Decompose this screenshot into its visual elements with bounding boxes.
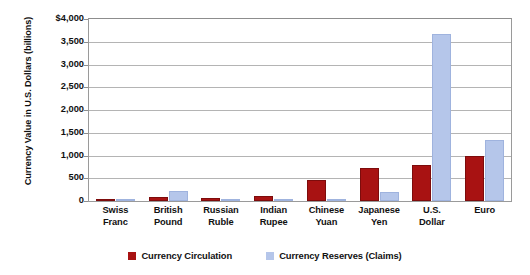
bar-group xyxy=(89,19,142,201)
x-tick-label-line1: Russian xyxy=(203,205,238,215)
y-tick-label: 3,500 xyxy=(24,37,84,46)
y-tick-mark xyxy=(84,42,88,43)
bar-currency-circulation[interactable] xyxy=(254,196,273,201)
x-tick-label-line2: Franc xyxy=(89,217,142,229)
x-tick-label: U.S.Dollar xyxy=(406,205,459,228)
bar-currency-circulation[interactable] xyxy=(307,180,326,201)
y-tick-mark xyxy=(84,156,88,157)
bar-currency-circulation[interactable] xyxy=(96,199,115,202)
y-tick-label: 0 xyxy=(24,196,84,205)
y-tick-label: 1,000 xyxy=(24,151,84,160)
y-tick-mark xyxy=(84,65,88,66)
bar-currency-circulation[interactable] xyxy=(360,168,379,201)
y-tick-label: 2,000 xyxy=(24,105,84,114)
x-tick-label-line1: U.S. xyxy=(423,205,441,215)
bar-group xyxy=(300,19,353,201)
y-tick-mark xyxy=(84,87,88,88)
bar-currency-circulation[interactable] xyxy=(465,156,484,202)
x-tick-label: SwissFranc xyxy=(89,205,142,228)
legend-item[interactable]: Currency Reserves (Claims) xyxy=(266,250,401,261)
x-tick-label-line2: Dollar xyxy=(406,217,459,229)
legend-label: Currency Circulation xyxy=(141,250,232,261)
bar-currency-circulation[interactable] xyxy=(412,165,431,201)
x-tick-label-line1: Chinese xyxy=(309,205,344,215)
bar-currency-reserves[interactable] xyxy=(169,191,188,201)
y-tick-mark xyxy=(84,19,88,20)
y-tick-mark xyxy=(84,201,88,202)
x-tick-label-line1: Euro xyxy=(474,205,495,215)
x-tick-label-line1: Indian xyxy=(260,205,287,215)
y-tick-label: 1,500 xyxy=(24,128,84,137)
bar-currency-reserves[interactable] xyxy=(432,34,451,201)
x-tick-label-line2: Ruble xyxy=(195,217,248,229)
legend-label: Currency Reserves (Claims) xyxy=(279,250,401,261)
bar-group xyxy=(458,19,511,201)
bar-currency-reserves[interactable] xyxy=(116,199,135,201)
x-tick-label-line1: Japanese xyxy=(358,205,400,215)
chart-legend: Currency CirculationCurrency Reserves (C… xyxy=(0,250,530,261)
x-tick-label-line2: Pound xyxy=(142,217,195,229)
y-tick-mark xyxy=(84,133,88,134)
legend-swatch-icon xyxy=(128,252,136,260)
x-tick-label-line2: Yuan xyxy=(300,217,353,229)
y-tick-label: 500 xyxy=(24,173,84,182)
bar-group xyxy=(406,19,459,201)
x-tick-label: ChineseYuan xyxy=(300,205,353,228)
y-tick-label: $4,000 xyxy=(24,14,84,23)
bar-currency-reserves[interactable] xyxy=(485,140,504,201)
x-tick-label-line2: Rupee xyxy=(247,217,300,229)
currency-bar-chart: Currency Value in U.S. Dollars (billions… xyxy=(0,0,530,275)
bar-currency-reserves[interactable] xyxy=(274,199,293,201)
bar-group xyxy=(247,19,300,201)
x-tick-label-line1: Swiss xyxy=(102,205,128,215)
y-tick-label: 3,000 xyxy=(24,60,84,69)
bar-currency-circulation[interactable] xyxy=(149,197,168,201)
x-tick-label: IndianRupee xyxy=(247,205,300,228)
bar-currency-reserves[interactable] xyxy=(221,199,240,201)
x-tick-label-line1: British xyxy=(154,205,183,215)
y-tick-mark xyxy=(84,110,88,111)
x-axis-labels: SwissFrancBritishPoundRussianRubleIndian… xyxy=(89,205,511,239)
bar-currency-reserves[interactable] xyxy=(327,199,346,201)
x-tick-label-line2: Yen xyxy=(353,217,406,229)
x-tick-label: RussianRuble xyxy=(195,205,248,228)
y-axis-title: Currency Value in U.S. Dollars (billions… xyxy=(23,1,33,201)
bars-layer xyxy=(89,19,511,201)
bar-currency-reserves[interactable] xyxy=(380,192,399,201)
bar-group xyxy=(353,19,406,201)
bar-currency-circulation[interactable] xyxy=(201,198,220,201)
bar-group xyxy=(142,19,195,201)
y-tick-label: 2,500 xyxy=(24,82,84,91)
x-tick-label: Euro xyxy=(458,205,511,217)
bar-group xyxy=(195,19,248,201)
legend-item[interactable]: Currency Circulation xyxy=(128,250,232,261)
x-tick-label: JapaneseYen xyxy=(353,205,406,228)
x-tick-label: BritishPound xyxy=(142,205,195,228)
y-tick-mark xyxy=(84,178,88,179)
legend-swatch-icon xyxy=(266,252,274,260)
